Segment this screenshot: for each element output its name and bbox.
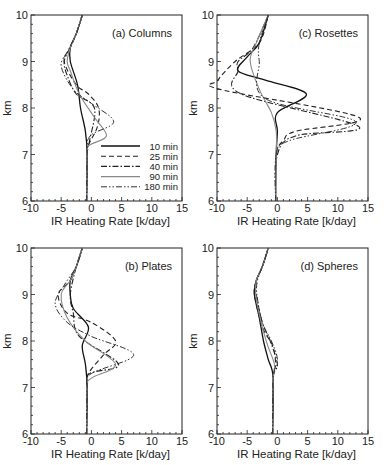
x-tick-label: 0 <box>88 202 94 214</box>
x-tick-label: 10 <box>146 435 158 447</box>
legend-entry: 180 min <box>144 181 178 192</box>
x-tick-label: 15 <box>362 202 374 214</box>
y-tick-label: 6 <box>22 195 28 207</box>
chart-panel-c: -10-5051015678910IR Heating Rate [k/day]… <box>187 9 374 227</box>
x-tick-label: 15 <box>176 202 188 214</box>
y-axis-label: km <box>187 333 199 348</box>
x-axis-label: IR Heating Rate [k/day] <box>237 448 356 460</box>
x-tick-label: -5 <box>242 435 252 447</box>
y-axis-label: km <box>187 100 199 115</box>
x-axis-label: IR Heating Rate [k/day] <box>51 215 170 227</box>
series-line-180-min <box>256 15 356 201</box>
y-tick-label: 6 <box>208 428 214 440</box>
x-tick-label: 10 <box>332 435 344 447</box>
x-tick-label: 5 <box>119 435 125 447</box>
series-line-180-min <box>256 248 277 434</box>
y-tick-label: 8 <box>22 102 28 114</box>
y-tick-label: 6 <box>22 428 28 440</box>
x-tick-label: 0 <box>88 435 94 447</box>
panel-title: (b) Plates <box>125 260 173 272</box>
y-tick-label: 6 <box>208 195 214 207</box>
x-tick-label: 0 <box>274 202 280 214</box>
panel-title: (c) Rosettes <box>299 27 359 39</box>
y-tick-label: 7 <box>208 382 214 394</box>
x-axis-label: IR Heating Rate [k/day] <box>51 448 170 460</box>
y-tick-label: 7 <box>22 382 28 394</box>
series-line-90-min <box>250 15 276 201</box>
x-tick-label: -5 <box>242 202 252 214</box>
panel-title: (a) Columns <box>112 27 172 39</box>
y-tick-label: 8 <box>22 335 28 347</box>
x-tick-label: 15 <box>362 435 374 447</box>
y-tick-label: 9 <box>22 289 28 301</box>
y-tick-label: 7 <box>208 149 214 161</box>
plot-frame <box>31 248 182 434</box>
x-tick-label: 5 <box>305 435 311 447</box>
y-tick-label: 10 <box>16 242 28 254</box>
series-line-40-min <box>70 248 118 434</box>
series-line-90-min <box>61 248 115 434</box>
y-tick-label: 7 <box>22 149 28 161</box>
y-axis-label: km <box>1 333 13 348</box>
x-axis-label: IR Heating Rate [k/day] <box>237 215 356 227</box>
x-tick-label: 5 <box>305 202 311 214</box>
series-line-180-min <box>55 248 134 434</box>
y-tick-label: 10 <box>16 9 28 21</box>
y-tick-label: 8 <box>208 335 214 347</box>
y-axis-label: km <box>1 100 13 115</box>
y-tick-label: 9 <box>22 56 28 68</box>
x-tick-label: 10 <box>332 202 344 214</box>
x-tick-label: 5 <box>119 202 125 214</box>
x-tick-label: 15 <box>176 435 188 447</box>
legend: 10 min25 min40 min90 min180 min <box>101 141 178 193</box>
y-tick-label: 8 <box>208 102 214 114</box>
y-tick-label: 9 <box>208 289 214 301</box>
panel-title: (d) Spheres <box>301 260 359 272</box>
x-tick-label: 10 <box>146 202 158 214</box>
series-line-40-min <box>64 15 95 201</box>
chart-panel-d: -10-5051015678910IR Heating Rate [k/day]… <box>187 242 374 460</box>
y-tick-label: 10 <box>202 242 214 254</box>
x-tick-label: 0 <box>274 435 280 447</box>
chart-panel-a: -10-5051015678910IR Heating Rate [k/day]… <box>1 9 188 227</box>
y-tick-label: 10 <box>202 9 214 21</box>
x-tick-label: -5 <box>56 435 66 447</box>
x-tick-label: -5 <box>56 202 66 214</box>
chart-panel-b: -10-5051015678910IR Heating Rate [k/day]… <box>1 242 188 460</box>
plot-frame <box>217 248 368 434</box>
y-tick-label: 9 <box>208 56 214 68</box>
